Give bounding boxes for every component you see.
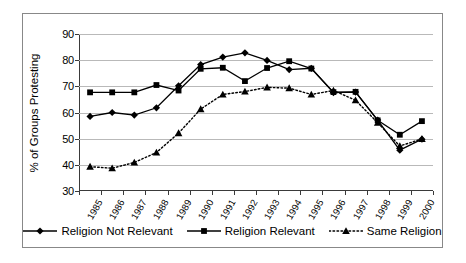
x-tick-label: 1998 (373, 198, 392, 221)
y-tick-label: 40 (62, 159, 74, 170)
x-tick-label: 1997 (351, 198, 370, 221)
x-tick-mark (123, 191, 124, 195)
square-marker (198, 66, 204, 72)
x-tick-mark (345, 191, 346, 195)
square-marker (264, 65, 270, 71)
diamond-marker (86, 113, 93, 120)
x-tick-mark (101, 191, 102, 195)
legend-swatch-diamond-icon (23, 226, 57, 236)
plot-area: 30405060708090 1985198619871988198919901… (79, 34, 433, 191)
square-marker (109, 89, 115, 95)
x-tick-label: 1985 (85, 198, 104, 221)
y-axis-title-text: % of Groups Protesting (28, 53, 40, 172)
legend-label: Religion Relevant (225, 225, 315, 237)
x-tick-label: 1996 (329, 198, 348, 221)
legend-label: Same Religion (367, 225, 442, 237)
square-marker (176, 88, 182, 94)
x-tick-mark (168, 191, 169, 195)
x-tick-mark (433, 191, 434, 195)
x-tick-label: 1989 (174, 198, 193, 221)
legend-item[interactable]: Same Religion (329, 225, 442, 237)
square-marker (154, 82, 160, 88)
x-tick-mark (322, 191, 323, 195)
diamond-marker (263, 57, 270, 64)
x-tick-mark (234, 191, 235, 195)
x-tick-mark (190, 191, 191, 195)
square-marker (286, 58, 292, 64)
y-tick-label: 70 (62, 81, 74, 92)
x-tick-mark (367, 191, 368, 195)
x-tick-label: 1994 (285, 198, 304, 221)
x-tick-label: 1987 (130, 198, 149, 221)
diamond-marker (241, 49, 248, 56)
y-tick-label: 60 (62, 107, 74, 118)
series-layer (79, 34, 433, 191)
legend-item[interactable]: Religion Not Relevant (23, 225, 172, 237)
diamond-marker (219, 53, 226, 60)
y-tick-label: 90 (62, 29, 74, 40)
y-tick-label: 50 (62, 133, 74, 144)
chart-legend: Religion Not RelevantReligion RelevantSa… (23, 225, 442, 237)
square-marker (220, 65, 226, 71)
x-tick-mark (79, 191, 80, 195)
diamond-marker (131, 112, 138, 119)
square-marker (397, 132, 403, 138)
x-tick-label: 1995 (307, 198, 326, 221)
series-same-religion (86, 84, 425, 172)
x-tick-label: 1991 (218, 198, 237, 221)
legend-swatch-square-icon (187, 226, 221, 236)
x-tick-label: 1990 (196, 198, 215, 221)
x-tick-mark (212, 191, 213, 195)
x-tick-mark (256, 191, 257, 195)
series-line (90, 53, 422, 150)
x-tick-label: 1988 (152, 198, 171, 221)
x-tick-mark (389, 191, 390, 195)
legend-label: Religion Not Relevant (61, 225, 172, 237)
diamond-marker (37, 227, 44, 234)
diamond-marker (286, 66, 293, 73)
square-marker (201, 228, 207, 234)
y-axis-title: % of Groups Protesting (26, 34, 42, 191)
square-marker (308, 66, 314, 72)
square-marker (87, 89, 93, 95)
square-marker (419, 118, 425, 124)
legend-swatch-triangle-icon (329, 226, 363, 236)
x-tick-mark (145, 191, 146, 195)
series-religion-not-relevant (86, 49, 425, 154)
series-line (90, 61, 422, 135)
chart-figure: % of Groups Protesting 30405060708090 19… (22, 13, 443, 248)
x-tick-label: 1993 (262, 198, 281, 221)
series-line (90, 87, 422, 168)
square-marker (353, 89, 359, 95)
diamond-marker (109, 109, 116, 116)
x-tick-label: 1999 (395, 198, 414, 221)
x-tick-label: 2000 (417, 198, 436, 221)
x-tick-mark (278, 191, 279, 195)
x-tick-mark (300, 191, 301, 195)
square-marker (131, 89, 137, 95)
triangle-marker (131, 159, 139, 166)
triangle-marker (352, 96, 360, 103)
y-tick-label: 80 (62, 55, 74, 66)
x-tick-label: 1986 (108, 198, 127, 221)
x-tick-mark (411, 191, 412, 195)
triangle-marker (86, 163, 94, 170)
legend-item[interactable]: Religion Relevant (187, 225, 315, 237)
triangle-marker (197, 105, 205, 112)
x-tick-label: 1992 (240, 198, 259, 221)
square-marker (242, 78, 248, 84)
y-tick-label: 30 (62, 186, 74, 197)
